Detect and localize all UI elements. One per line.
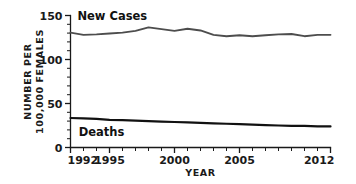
series-label-deaths: Deaths <box>79 125 125 139</box>
x-tick-label: 2012 <box>304 154 335 167</box>
y-axis-title-line1: NUMBER PER <box>22 43 33 119</box>
x-axis-title: YEAR <box>184 167 216 178</box>
line-chart: 050100150 19921995200020052012 New Cases… <box>0 0 356 184</box>
series-label-new-cases: New Cases <box>77 9 147 23</box>
y-tick-label: 0 <box>55 142 63 155</box>
y-tick-label: 50 <box>47 98 63 111</box>
x-tick-label: 1995 <box>94 154 125 167</box>
chart-figure: 050100150 19921995200020052012 New Cases… <box>0 0 356 184</box>
x-tick-label: 2005 <box>224 154 255 167</box>
x-tick-label: 2000 <box>159 154 190 167</box>
y-axis-title-line2: 100,000 FEMALES <box>34 29 45 134</box>
y-tick-label: 150 <box>40 10 63 23</box>
y-axis-title: NUMBER PER 100,000 FEMALES <box>22 29 45 134</box>
